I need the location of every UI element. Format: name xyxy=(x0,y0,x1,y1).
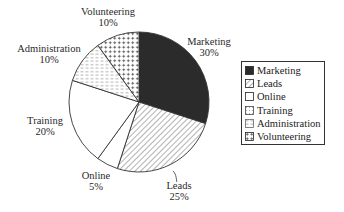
legend-item-administration: Administration xyxy=(245,117,324,130)
label-administration-pct: 10% xyxy=(10,54,88,65)
legend-item-volunteering: Volunteering xyxy=(245,130,324,143)
legend-label: Training xyxy=(257,105,293,116)
swatch-empty-icon xyxy=(245,92,254,101)
swatch-dotted-icon xyxy=(245,106,254,115)
label-online-pct: 5% xyxy=(76,181,116,192)
label-volunteering-name: Volunteering xyxy=(78,6,138,17)
legend-label: Leads xyxy=(257,78,282,89)
swatch-diagonal-hatch-icon xyxy=(245,79,254,88)
legend-item-online: Online xyxy=(245,90,324,103)
label-marketing-name: Marketing xyxy=(176,36,242,47)
label-volunteering-pct: 10% xyxy=(78,17,138,28)
label-administration: Administration 10% xyxy=(10,43,88,65)
swatch-light-pattern-icon xyxy=(245,119,254,128)
chart-legend: Marketing Leads Online Training Administ… xyxy=(241,61,325,145)
legend-label: Administration xyxy=(257,118,321,129)
legend-label: Online xyxy=(257,91,286,102)
legend-label: Marketing xyxy=(257,65,301,76)
label-training-name: Training xyxy=(22,115,68,126)
legend-item-training: Training xyxy=(245,104,324,117)
label-administration-name: Administration xyxy=(10,43,88,54)
label-training-pct: 20% xyxy=(22,126,68,137)
label-leads-pct: 25% xyxy=(159,191,199,202)
legend-item-leads: Leads xyxy=(245,77,324,90)
label-marketing: Marketing 30% xyxy=(176,36,242,58)
label-online: Online 5% xyxy=(76,170,116,192)
label-marketing-pct: 30% xyxy=(176,47,242,58)
legend-item-marketing: Marketing xyxy=(245,64,324,77)
swatch-solid-icon xyxy=(245,66,254,75)
label-volunteering: Volunteering 10% xyxy=(78,6,138,28)
legend-label: Volunteering xyxy=(257,131,311,142)
label-leads-name: Leads xyxy=(159,180,199,191)
label-training: Training 20% xyxy=(22,115,68,137)
swatch-plus-grid-icon xyxy=(245,132,254,141)
label-online-name: Online xyxy=(76,170,116,181)
label-leads: Leads 25% xyxy=(159,180,199,202)
